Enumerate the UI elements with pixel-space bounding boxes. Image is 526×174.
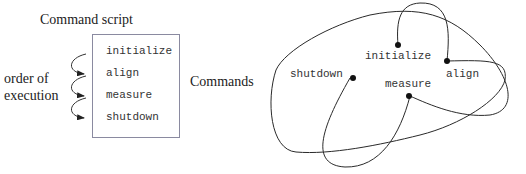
script-command-initialize: initialize — [106, 45, 172, 57]
script-command-align: align — [106, 67, 139, 79]
commands-label: Commands — [190, 74, 254, 90]
graph-node-align: align — [446, 68, 479, 80]
node-dot-measure — [406, 93, 412, 99]
order-label-line2: execution — [4, 87, 58, 104]
graph-node-shutdown: shutdown — [290, 68, 343, 80]
node-dot-initialize — [395, 42, 401, 48]
node-dot-align — [444, 58, 450, 64]
graph-node-initialize: initialize — [365, 50, 431, 62]
order-label-line1: order of — [4, 70, 58, 87]
script-command-measure: measure — [106, 89, 152, 101]
command-script-title: Command script — [40, 12, 133, 28]
script-command-shutdown: shutdown — [106, 111, 159, 123]
execution-arrows — [71, 54, 86, 118]
order-of-execution-label: order of execution — [4, 70, 58, 104]
command-script-box: initialize align measure shutdown — [92, 34, 180, 138]
node-dot-shutdown — [350, 75, 356, 81]
graph-node-measure: measure — [385, 78, 431, 90]
